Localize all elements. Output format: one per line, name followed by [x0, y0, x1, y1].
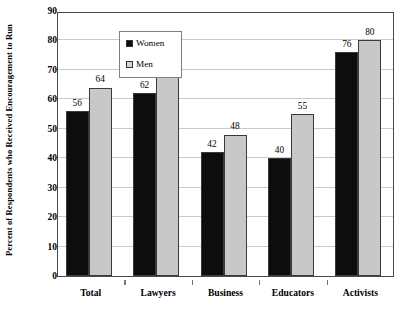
bar-business-men: [224, 135, 247, 276]
x-axis-separator-tick: [259, 280, 260, 285]
bar-educators-women: [268, 158, 291, 276]
x-axis-separator-tick: [327, 280, 328, 285]
y-axis-tick-label: 20: [35, 213, 57, 223]
y-axis-tick-label: 80: [35, 37, 57, 47]
y-axis-tick-labels: 0102030405060708090: [28, 12, 57, 277]
x-axis-label-business: Business: [192, 287, 259, 298]
bar-value-label: 80: [352, 28, 387, 37]
bar-total-women: [66, 111, 89, 276]
legend-label-women: Women: [136, 39, 164, 48]
x-axis-separator-tick: [192, 280, 193, 285]
y-axis-tick-label: 90: [35, 7, 57, 17]
bar-lawyers-women: [133, 93, 156, 276]
x-axis-separator-tick: [124, 280, 125, 285]
plot-area: 56646270424840557680 Women Men: [57, 12, 394, 277]
y-axis-title: Percent of Respondents who Received Enco…: [0, 0, 18, 280]
y-axis-tick-label: 70: [35, 66, 57, 76]
legend-entry-women: Women: [126, 39, 164, 48]
bar-value-label: 55: [285, 102, 320, 111]
bar-chart: Percent of Respondents who Received Enco…: [0, 0, 407, 310]
bar-value-label: 64: [83, 75, 118, 84]
bar-activists-women: [335, 52, 358, 276]
x-axis-label-lawyers: Lawyers: [124, 287, 191, 298]
y-axis-tick-label: 50: [35, 125, 57, 135]
y-axis-tick-label: 40: [35, 154, 57, 164]
y-axis-tick-label: 10: [35, 243, 57, 253]
legend-label-men: Men: [136, 60, 153, 69]
bar-business-women: [201, 152, 224, 276]
gray-square-swatch-icon: [126, 61, 133, 68]
y-axis-tick-label: 0: [35, 272, 57, 282]
bar-educators-men: [291, 114, 314, 276]
bar-value-label: 48: [218, 122, 253, 131]
legend-entry-men: Men: [126, 60, 153, 69]
y-axis-title-text: Percent of Respondents who Received Enco…: [4, 24, 14, 256]
black-square-swatch-icon: [126, 40, 133, 47]
x-axis-label-total: Total: [57, 287, 124, 298]
y-axis-tick-label: 60: [35, 96, 57, 106]
x-axis-label-activists: Activists: [327, 287, 394, 298]
chart-legend: Women Men: [119, 31, 182, 78]
bar-activists-men: [358, 40, 381, 276]
bar-lawyers-men: [156, 70, 179, 276]
x-axis-category-labels: TotalLawyersBusinessEducatorsActivists: [57, 280, 394, 306]
x-axis-label-educators: Educators: [259, 287, 326, 298]
y-axis-tick-label: 30: [35, 184, 57, 194]
bar-total-men: [89, 88, 112, 276]
